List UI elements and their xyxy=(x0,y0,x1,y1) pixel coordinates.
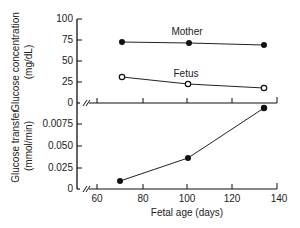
tick-100: 100 xyxy=(56,13,73,24)
bottom-yunit: (mmol/min) xyxy=(23,121,34,171)
xtick-140: 140 xyxy=(271,193,288,204)
tick-75: 75 xyxy=(62,34,74,45)
top-y-ticks: 100 75 50 25 0 xyxy=(56,13,82,108)
bottom-x-axis: 60 80 100 120 140 Fetal age (days) xyxy=(77,183,288,218)
tick-0-bottom: 0 xyxy=(67,183,73,194)
bottom-ylabel: Glucose transfer xyxy=(10,109,21,183)
series-fetus: Fetus xyxy=(119,68,266,91)
xtick-120: 120 xyxy=(224,193,241,204)
xtick-100: 100 xyxy=(179,193,196,204)
bottom-y-ticks: 0.0075 0.050 0.025 0 xyxy=(42,118,82,194)
mother-label: Mother xyxy=(171,26,203,37)
fetus-label: Fetus xyxy=(173,68,198,79)
xlabel: Fetal age (days) xyxy=(151,207,223,218)
tick-25: 25 xyxy=(62,76,74,87)
top-x-axis xyxy=(77,97,277,106)
top-yunit: (mg/dL) xyxy=(23,45,34,79)
xtick-80: 80 xyxy=(137,193,149,204)
tick-0.0075: 0.0075 xyxy=(42,118,73,129)
series-mother: Mother xyxy=(119,26,267,48)
glucose-chart: Glucose concentration (mg/dL) Glucose tr… xyxy=(0,0,300,228)
xtick-60: 60 xyxy=(91,193,103,204)
tick-50: 50 xyxy=(62,55,74,66)
top-ylabel: Glucose concentration xyxy=(10,12,21,112)
tick-0.050: 0.050 xyxy=(48,140,73,151)
tick-0-top: 0 xyxy=(67,97,73,108)
tick-0.025: 0.025 xyxy=(48,162,73,173)
series-transfer xyxy=(117,105,267,184)
